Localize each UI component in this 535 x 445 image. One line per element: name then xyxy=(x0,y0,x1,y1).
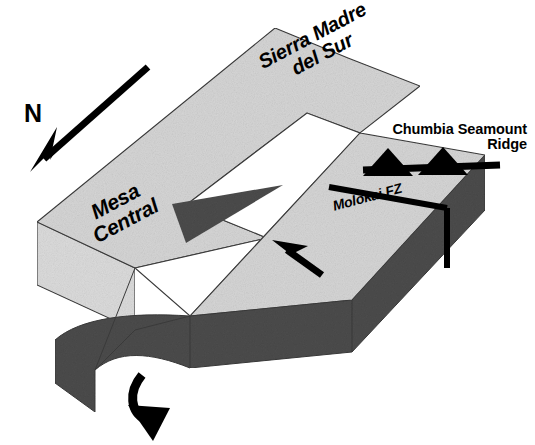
rotation-arrow-head xyxy=(128,405,170,441)
label-north: N xyxy=(24,100,42,127)
block-diagram-figure: Sierra Madre del Sur Mesa Central Chumbi… xyxy=(0,0,535,445)
label-chumbia-seamount-ridge: Chumbia Seamount Ridge xyxy=(341,122,527,153)
flexed-base-shape xyxy=(55,315,190,412)
rotation-arrow xyxy=(128,375,170,441)
